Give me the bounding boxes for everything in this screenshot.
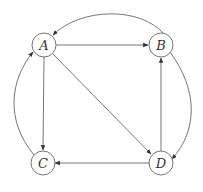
node-c-label: C bbox=[38, 156, 48, 171]
edge-c-a bbox=[14, 52, 34, 155]
edge-a-d bbox=[53, 54, 151, 154]
edge-b-a bbox=[53, 14, 164, 35]
node-a-label: A bbox=[38, 38, 48, 53]
node-b-label: B bbox=[155, 38, 166, 53]
node-d-label: D bbox=[155, 156, 167, 171]
edge-b-d bbox=[170, 52, 191, 159]
edge-a-c bbox=[43, 57, 44, 150]
graph-diagram: A B C D bbox=[0, 0, 203, 192]
